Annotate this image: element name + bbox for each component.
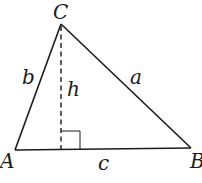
- side-label-c: c: [98, 151, 109, 175]
- side-c: [15, 148, 191, 150]
- vertex-label-a: A: [0, 149, 14, 173]
- altitude-label-h: h: [67, 77, 80, 101]
- vertex-label-b: B: [189, 149, 202, 173]
- side-label-a: a: [130, 65, 142, 89]
- side-label-b: b: [22, 65, 35, 89]
- right-angle-marker: [61, 131, 80, 150]
- side-a: [61, 24, 191, 148]
- triangle-diagram: C A B b a c h: [0, 0, 202, 183]
- vertex-label-c: C: [53, 0, 68, 24]
